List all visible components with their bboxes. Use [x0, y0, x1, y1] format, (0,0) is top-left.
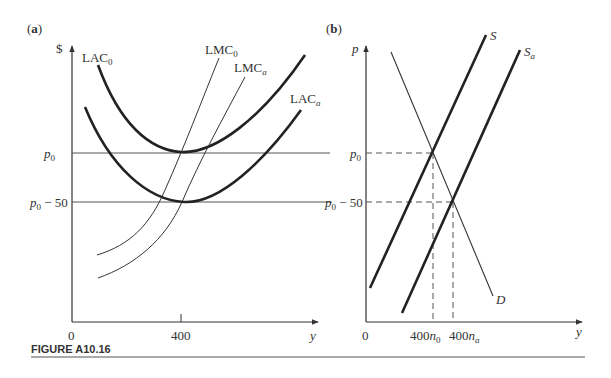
x-axis-label-a: y	[308, 328, 316, 343]
p0-minus-50-label-b: p0 − 50	[324, 195, 363, 212]
demand-curve	[391, 52, 493, 296]
laca-curve	[85, 107, 301, 202]
panel-a: (a) $ y 0 400 p0 p0 − 50 LAC0 LACa LMC0 …	[27, 21, 332, 343]
lac0-label: LAC0	[82, 50, 113, 67]
panel-b-label: (b)	[326, 21, 342, 36]
lmc0-label: LMC0	[205, 42, 238, 59]
laca-label: LACa	[290, 91, 321, 108]
origin-label-b: 0	[362, 328, 369, 343]
demand-label: D	[495, 292, 506, 307]
figure-caption: FIGURE A10.16	[31, 343, 111, 355]
p0-minus-50-label-a: p0 − 50	[29, 195, 68, 212]
supply-sa-label: Sa	[524, 44, 536, 61]
lac0-curve	[98, 55, 305, 152]
panel-b: (b) p y 0 p0 p0 − 50 400n0 400na D S Sa	[324, 21, 582, 345]
supply-s-label: S	[490, 28, 497, 43]
lmca-curve	[98, 77, 245, 278]
lmca-label: LMCa	[234, 60, 267, 77]
panel-a-label: (a)	[27, 21, 42, 36]
tick-label-400: 400	[171, 328, 191, 343]
lmc0-curve	[97, 58, 219, 255]
y-axis-label-a: $	[56, 41, 63, 56]
tick-label-400n0: 400n0	[410, 328, 441, 345]
p0-label-b: p0	[349, 146, 362, 163]
y-axis-label-b: p	[351, 41, 359, 56]
origin-label-a: 0	[68, 328, 75, 343]
figure-a10-16: (a) $ y 0 400 p0 p0 − 50 LAC0 LACa LMC0 …	[0, 0, 611, 378]
p0-label-a: p0	[43, 146, 56, 163]
tick-label-400na: 400na	[449, 328, 480, 345]
x-axis-label-b: y	[574, 324, 582, 339]
